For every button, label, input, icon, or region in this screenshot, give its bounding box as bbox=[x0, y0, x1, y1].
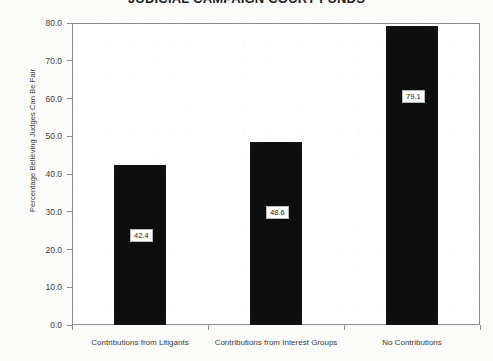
y-axis-tick-label: 20.0 bbox=[45, 245, 62, 255]
y-axis-tick: 80.0 bbox=[0, 18, 72, 28]
y-axis-tick-mark bbox=[67, 211, 72, 212]
bar bbox=[250, 142, 302, 325]
y-axis-tick-mark bbox=[67, 136, 72, 137]
y-axis-tick: 40.0 bbox=[0, 169, 72, 179]
x-axis-category-label: Contributions from Litigants bbox=[72, 338, 208, 347]
y-axis-tick-mark bbox=[67, 98, 72, 99]
y-axis-tick-label: 40.0 bbox=[45, 169, 62, 179]
y-axis-tick: 10.0 bbox=[0, 282, 72, 292]
y-axis-tick-mark bbox=[67, 60, 72, 61]
bar-chart-figure: Percentage Believing Judges Can Be Fair … bbox=[0, 0, 493, 361]
y-axis-tick-mark bbox=[67, 174, 72, 175]
x-axis-category-label: No Contributions bbox=[344, 338, 480, 347]
y-axis-tick-label: 10.0 bbox=[45, 282, 62, 292]
y-axis-tick-mark bbox=[67, 249, 72, 250]
y-axis-tick-mark bbox=[67, 287, 72, 288]
y-axis-tick: 20.0 bbox=[0, 245, 72, 255]
x-axis-tick-mark bbox=[208, 325, 209, 330]
y-axis-tick-label: 0.0 bbox=[50, 320, 62, 330]
x-axis-tick-mark bbox=[72, 325, 73, 330]
y-axis-tick-label: 70.0 bbox=[45, 56, 62, 66]
y-axis-tick-label: 50.0 bbox=[45, 131, 62, 141]
y-axis-tick: 0.0 bbox=[0, 320, 72, 330]
y-axis-tick: 60.0 bbox=[0, 94, 72, 104]
bar-value-label: 48.6 bbox=[266, 206, 289, 219]
y-axis-tick: 70.0 bbox=[0, 56, 72, 66]
chart-title-text: JUDICIAL CAMPAIGN COURT FUNDS bbox=[0, 0, 493, 6]
y-axis-tick: 50.0 bbox=[0, 131, 72, 141]
y-axis-tick-mark bbox=[67, 23, 72, 24]
y-axis-tick-label: 60.0 bbox=[45, 94, 62, 104]
y-axis-tick-label: 30.0 bbox=[45, 207, 62, 217]
bar-value-label: 79.1 bbox=[402, 90, 425, 103]
bar bbox=[386, 26, 438, 325]
bar bbox=[114, 165, 166, 325]
y-axis-tick: 30.0 bbox=[0, 207, 72, 217]
x-axis-tick-mark bbox=[344, 325, 345, 330]
x-axis-category-label: Contributions from Interest Groups bbox=[208, 338, 344, 347]
y-axis-tick-label: 80.0 bbox=[45, 18, 62, 28]
bar-value-label: 42.4 bbox=[130, 229, 153, 242]
x-axis-tick-mark bbox=[480, 325, 481, 330]
chart-title: JUDICIAL CAMPAIGN COURT FUNDS bbox=[0, 0, 493, 9]
